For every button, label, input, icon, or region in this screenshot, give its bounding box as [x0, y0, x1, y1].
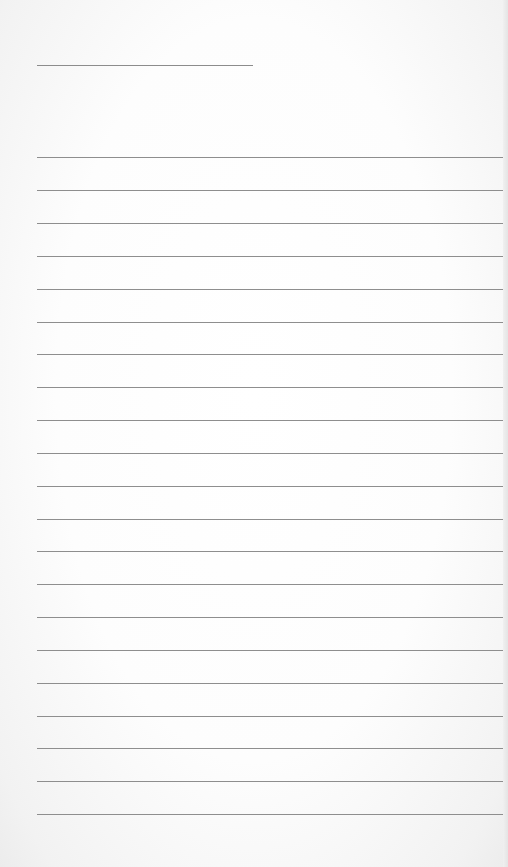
ruled-line	[37, 289, 504, 290]
ruled-line	[37, 157, 504, 158]
ruled-line	[37, 748, 504, 749]
ruled-line	[37, 519, 504, 520]
title-line	[37, 65, 253, 66]
ruled-line	[37, 486, 504, 487]
page-edge	[503, 0, 508, 867]
ruled-line	[37, 551, 504, 552]
ruled-line	[37, 387, 504, 388]
ruled-line	[37, 617, 504, 618]
ruled-line	[37, 716, 504, 717]
ruled-line	[37, 322, 504, 323]
ruled-line	[37, 683, 504, 684]
ruled-line	[37, 420, 504, 421]
ruled-line	[37, 190, 504, 191]
ruled-line	[37, 781, 504, 782]
ruled-line	[37, 453, 504, 454]
ruled-line	[37, 650, 504, 651]
ruled-line	[37, 354, 504, 355]
ruled-line	[37, 256, 504, 257]
ruled-line	[37, 223, 504, 224]
notepad-sheet	[0, 0, 508, 867]
ruled-line	[37, 584, 504, 585]
ruled-line	[37, 814, 504, 815]
